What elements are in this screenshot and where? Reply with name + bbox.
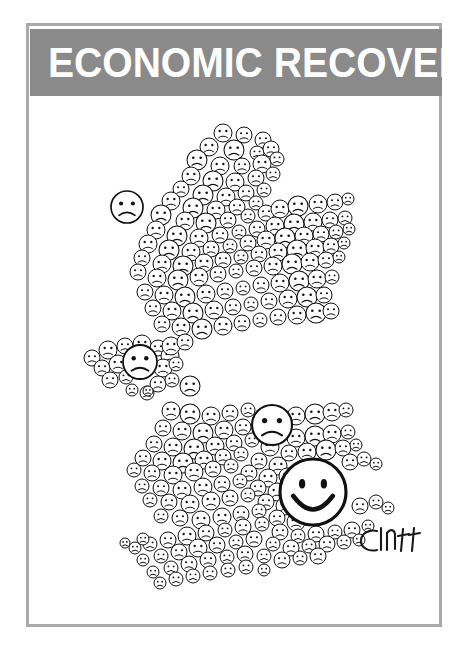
sad-face-icon xyxy=(234,250,248,264)
title-banner: ECONOMIC RECOVERY xyxy=(30,29,442,96)
sad-face-icon xyxy=(269,510,285,526)
sad-face-icon xyxy=(352,498,368,514)
sad-face-icon xyxy=(148,269,166,287)
sad-face-icon xyxy=(234,158,250,174)
sad-face-icon xyxy=(214,124,232,142)
sad-face-icon xyxy=(217,283,233,299)
sad-face-icon xyxy=(335,440,351,456)
sad-face-icon xyxy=(253,277,269,293)
sad-face-icon xyxy=(266,167,280,181)
sad-face-icon xyxy=(147,566,159,578)
sad-face-icon xyxy=(214,476,230,492)
large-sad-face xyxy=(252,405,292,445)
sad-face-icon xyxy=(209,537,225,553)
sad-face-icon xyxy=(288,306,306,324)
sad-face-icon xyxy=(305,404,325,424)
sad-face-icon xyxy=(192,319,212,339)
large-sad-face-northern-ireland xyxy=(123,345,157,379)
sad-face-icon xyxy=(342,193,354,205)
sad-face-icon xyxy=(162,402,180,420)
sad-face-icon xyxy=(257,549,271,563)
sad-face-icon xyxy=(357,452,371,466)
sad-face-icon xyxy=(234,315,250,331)
sad-face-icon xyxy=(197,285,215,303)
sad-face-icon xyxy=(239,560,253,574)
sad-face-icon xyxy=(241,209,255,223)
sad-face-icon xyxy=(137,554,149,566)
sad-face-icon xyxy=(270,152,284,166)
sad-face-icon xyxy=(337,535,351,549)
sad-face-icon xyxy=(154,549,168,563)
sad-face-icon xyxy=(169,572,183,586)
sad-face-icon xyxy=(155,420,171,436)
signature-mark xyxy=(355,520,442,560)
sad-face-icon xyxy=(180,376,200,396)
sad-face-icon xyxy=(271,274,289,292)
sad-face-icon xyxy=(120,538,130,548)
sad-face-icon xyxy=(190,268,208,286)
sad-face-icon xyxy=(154,577,166,589)
sad-face-icon xyxy=(333,251,345,263)
sad-face-icon xyxy=(180,404,200,424)
sad-face-icon xyxy=(325,270,339,284)
sad-face-icon xyxy=(233,474,247,488)
sad-face-icon xyxy=(253,313,267,327)
sad-face-icon xyxy=(143,493,157,507)
sad-face-icon xyxy=(145,300,161,316)
sad-face-icon xyxy=(222,405,238,421)
sad-face-icon xyxy=(338,237,350,249)
sad-face-icon xyxy=(261,293,277,309)
sad-face-icon xyxy=(218,523,232,537)
sad-face-icon xyxy=(264,257,282,275)
sad-face-icon xyxy=(343,223,355,235)
sad-face-icon xyxy=(224,140,244,160)
sad-face-icon xyxy=(323,403,341,421)
sad-face-icon xyxy=(225,299,241,315)
sad-face-icon xyxy=(146,436,162,452)
sad-face-icon xyxy=(177,334,193,350)
sad-face-icon xyxy=(288,196,308,216)
sad-face-icon xyxy=(236,281,250,295)
sad-face-icon xyxy=(169,357,183,371)
sad-face-icon xyxy=(137,284,153,300)
sad-face-icon xyxy=(172,318,190,336)
sad-face-icon xyxy=(301,253,319,271)
sad-face-icon xyxy=(205,301,223,319)
sad-face-icon xyxy=(181,495,199,513)
sad-face-icon xyxy=(370,458,382,470)
sad-face-icon xyxy=(274,552,290,568)
sad-face-icon xyxy=(229,264,243,278)
sad-face-icon xyxy=(153,480,169,496)
sad-face-icon xyxy=(203,566,217,580)
sad-face-icon xyxy=(143,386,153,396)
sad-face-icon xyxy=(173,422,191,440)
sad-face-icon xyxy=(266,537,280,551)
sad-face-icon xyxy=(172,510,188,526)
uk-map-of-faces xyxy=(30,96,442,624)
sad-face-icon xyxy=(293,551,307,565)
sad-face-icon xyxy=(270,309,286,325)
sad-face-icon xyxy=(214,317,232,335)
sad-face-icon xyxy=(144,465,160,481)
sad-face-icon xyxy=(223,239,237,253)
sad-face-icon xyxy=(241,403,255,417)
sad-face-icon xyxy=(220,212,236,228)
sad-face-icon xyxy=(382,502,394,514)
sad-face-icon xyxy=(369,495,383,509)
sad-face-icon xyxy=(342,454,358,470)
sad-face-icon xyxy=(246,260,262,276)
sad-face-icon xyxy=(246,531,262,547)
sad-face-icon xyxy=(316,287,332,303)
sad-face-icon xyxy=(127,463,141,477)
sad-face-icon xyxy=(329,225,343,239)
sad-face-icon xyxy=(186,569,200,583)
sad-face-icon xyxy=(126,384,138,396)
sad-face-icon xyxy=(350,439,362,451)
sad-face-icon xyxy=(200,552,216,568)
sad-face-icon xyxy=(161,494,177,510)
sad-face-icon xyxy=(220,550,234,564)
artist-signature xyxy=(355,520,442,560)
sad-face-icon xyxy=(316,440,336,460)
sad-face-icon xyxy=(257,183,271,197)
sad-face-icon xyxy=(258,564,270,576)
